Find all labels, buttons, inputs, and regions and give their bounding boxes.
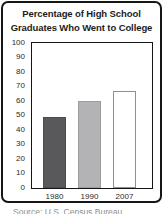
bar-1980 bbox=[43, 117, 66, 188]
x-tick-label-1980: 1980 bbox=[46, 192, 64, 201]
y-tick-label-20: 20 bbox=[0, 154, 25, 163]
bar-2007 bbox=[113, 91, 136, 188]
y-tick-label-80: 80 bbox=[0, 67, 25, 76]
y-tick-label-30: 30 bbox=[0, 139, 25, 148]
y-tick-label-90: 90 bbox=[0, 52, 25, 61]
x-tick-label-1990: 1990 bbox=[81, 192, 99, 201]
chart-title-line1: Percentage of High School bbox=[0, 7, 163, 21]
y-tick-label-60: 60 bbox=[0, 96, 25, 105]
y-tick-label-50: 50 bbox=[0, 110, 25, 119]
source-caption: Source: U.S. Census Bureau bbox=[13, 207, 122, 214]
chart-title: Percentage of High School Graduates Who … bbox=[0, 7, 163, 34]
x-axis-labels: 198019902007 bbox=[33, 192, 155, 203]
chart-title-line2: Graduates Who Went to College bbox=[0, 21, 163, 35]
x-tick-label-2007: 2007 bbox=[116, 192, 134, 201]
y-tick-label-100: 100 bbox=[0, 38, 25, 47]
y-tick-label-10: 10 bbox=[0, 168, 25, 177]
bar-1990 bbox=[78, 101, 101, 188]
y-axis-labels: 1009080706050403020100 bbox=[0, 42, 28, 189]
plot-area bbox=[31, 42, 153, 189]
y-tick-label-70: 70 bbox=[0, 81, 25, 90]
y-tick-label-0: 0 bbox=[0, 183, 25, 192]
y-tick-label-40: 40 bbox=[0, 125, 25, 134]
